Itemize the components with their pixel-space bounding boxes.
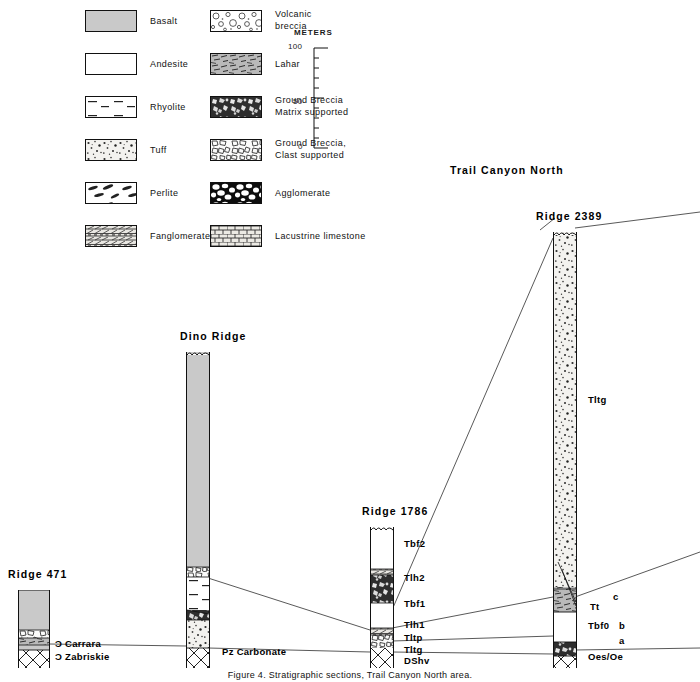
unit-label-tltg-2389: Tltg [588,394,607,405]
unit-label-carrara: Ɔ Carrara [55,638,101,649]
unit-label-tltp: Tltp [404,632,423,643]
unit-label-tbf2: Tbf2 [404,538,425,549]
subunit-label-b: b [619,620,625,631]
unit-label-tltg-1786: Tltg [404,644,423,655]
section-title-ridge-471: Ridge 471 [8,568,68,580]
unit-label-tbf1: Tbf1 [404,598,425,609]
section-title-ridge-2389: Ridge 2389 [536,210,602,222]
subunit-label-a: a [619,635,625,646]
column-ridge-1786-basement [370,648,394,668]
unit-label-zabriskie: Ɔ Zabriskie [55,651,110,662]
unit-label-dshv: DShv [404,655,429,666]
unit-label-tlh1: Tlh1 [404,619,425,630]
figure-caption: Figure 4. Stratigraphic sections, Trail … [0,670,700,680]
column-ridge-471 [18,590,50,668]
unit-label-oes-oe: Oes/Oe [588,651,623,662]
unit-label-tbf0: Tbf0 [588,620,609,631]
unit-label-tlh2: Tlh2 [404,572,425,583]
correlation-lines [0,0,700,682]
section-title-ridge-1786: Ridge 1786 [362,505,428,517]
column-ridge-2389 [553,232,577,668]
subunit-label-c: c [613,591,619,602]
column-ridge-1786 [370,527,394,668]
unit-label-tt: Tt [590,601,600,612]
unit-label-pz-carbonate: Pz Carbonate [222,646,286,657]
column-dino-ridge [186,352,210,668]
section-title-dino-ridge: Dino Ridge [180,330,246,342]
